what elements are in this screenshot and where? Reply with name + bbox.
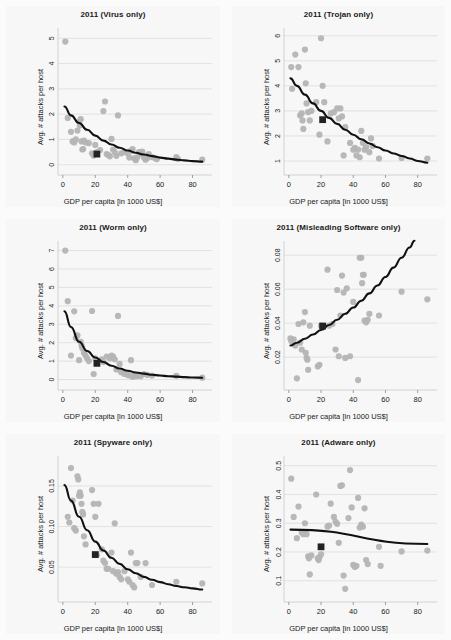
svg-text:40: 40: [349, 180, 357, 189]
svg-text:20: 20: [317, 180, 325, 189]
svg-text:2: 2: [275, 134, 282, 138]
svg-text:20: 20: [91, 395, 99, 404]
svg-text:4: 4: [275, 84, 282, 88]
svg-text:4: 4: [49, 304, 56, 308]
svg-text:0.1: 0.1: [275, 576, 282, 586]
x-axis-label: GDP per capita [in 1000 US$]: [226, 624, 451, 633]
plot-area: 123456020406080: [226, 0, 451, 213]
svg-text:0.2: 0.2: [275, 547, 282, 557]
svg-text:80: 80: [188, 607, 196, 616]
svg-text:4: 4: [49, 62, 56, 66]
svg-text:60: 60: [156, 607, 164, 616]
multi-panel-scatter-figure: 2011 (Virus only) Avg. # attacks per hos…: [0, 0, 451, 640]
x-axis-label: GDP per capita [in 1000 US$]: [0, 197, 226, 206]
panel-worm-only: 2011 (Worm only) Avg. # attacks per host…: [0, 213, 226, 428]
svg-text:80: 80: [414, 180, 422, 189]
svg-text:80: 80: [188, 180, 196, 189]
x-axis-label: GDP per capita [in 1000 US$]: [226, 197, 451, 206]
panel-adware-only: 2011 (Adware only) Avg. # attacks per ho…: [226, 428, 451, 640]
plot-area: 012345020406080: [0, 0, 226, 213]
svg-text:3: 3: [49, 87, 56, 91]
plot-area: 0.10.20.30.40.5020406080: [226, 428, 451, 640]
svg-text:6: 6: [49, 267, 56, 271]
svg-text:5: 5: [275, 59, 282, 63]
svg-text:0.4: 0.4: [275, 490, 282, 500]
svg-text:2: 2: [49, 112, 56, 116]
plot-area: 01234567020406080: [0, 213, 226, 428]
svg-text:80: 80: [414, 607, 422, 616]
svg-text:7: 7: [49, 248, 56, 252]
svg-text:60: 60: [381, 607, 389, 616]
svg-text:0.04: 0.04: [275, 316, 282, 330]
svg-text:0: 0: [287, 607, 291, 616]
svg-text:60: 60: [156, 395, 164, 404]
svg-text:0.08: 0.08: [275, 248, 282, 262]
svg-text:0: 0: [49, 163, 56, 167]
plot-area: 0.020.040.060.08020406080: [226, 213, 451, 428]
svg-text:80: 80: [188, 395, 196, 404]
svg-text:20: 20: [317, 607, 325, 616]
svg-text:3: 3: [49, 322, 56, 326]
svg-text:1: 1: [275, 159, 282, 163]
x-axis-label: GDP per capita [in 1000 US$]: [0, 412, 226, 421]
svg-text:0.06: 0.06: [275, 282, 282, 296]
svg-text:60: 60: [381, 395, 389, 404]
svg-text:0.15: 0.15: [49, 479, 56, 493]
svg-text:40: 40: [124, 607, 132, 616]
panel-trojan-only: 2011 (Trojan only) Avg. # attacks per ho…: [226, 0, 451, 213]
svg-text:0.5: 0.5: [275, 461, 282, 471]
svg-text:0.10: 0.10: [49, 520, 56, 534]
svg-text:0: 0: [287, 180, 291, 189]
svg-text:5: 5: [49, 36, 56, 40]
svg-text:0.05: 0.05: [49, 560, 56, 574]
svg-text:60: 60: [156, 180, 164, 189]
panel-misleading-software-only: 2011 (Misleading Software only) Avg. # a…: [226, 213, 451, 428]
svg-text:60: 60: [381, 180, 389, 189]
svg-text:3: 3: [275, 109, 282, 113]
x-axis-label: GDP per capita [in 1000 US$]: [226, 412, 451, 421]
svg-text:1: 1: [49, 137, 56, 141]
svg-text:40: 40: [349, 395, 357, 404]
svg-text:0: 0: [49, 378, 56, 382]
svg-text:40: 40: [124, 395, 132, 404]
svg-text:20: 20: [91, 180, 99, 189]
svg-text:0: 0: [61, 395, 65, 404]
plot-area: 0.050.100.15020406080: [0, 428, 226, 640]
svg-text:80: 80: [414, 395, 422, 404]
svg-text:40: 40: [349, 607, 357, 616]
svg-text:0.3: 0.3: [275, 518, 282, 528]
panel-spyware-only: 2011 (Spyware only) Avg. # attacks per h…: [0, 428, 226, 640]
svg-text:20: 20: [91, 607, 99, 616]
svg-text:0: 0: [287, 395, 291, 404]
svg-text:40: 40: [124, 180, 132, 189]
svg-text:0: 0: [61, 607, 65, 616]
svg-text:6: 6: [275, 34, 282, 38]
svg-text:20: 20: [317, 395, 325, 404]
svg-text:2: 2: [49, 341, 56, 345]
svg-text:1: 1: [49, 359, 56, 363]
x-axis-label: GDP per capita [in 1000 US$]: [0, 624, 226, 633]
svg-text:5: 5: [49, 285, 56, 289]
svg-text:0.02: 0.02: [275, 350, 282, 364]
panel-virus-only: 2011 (Virus only) Avg. # attacks per hos…: [0, 0, 226, 213]
svg-text:0: 0: [61, 180, 65, 189]
